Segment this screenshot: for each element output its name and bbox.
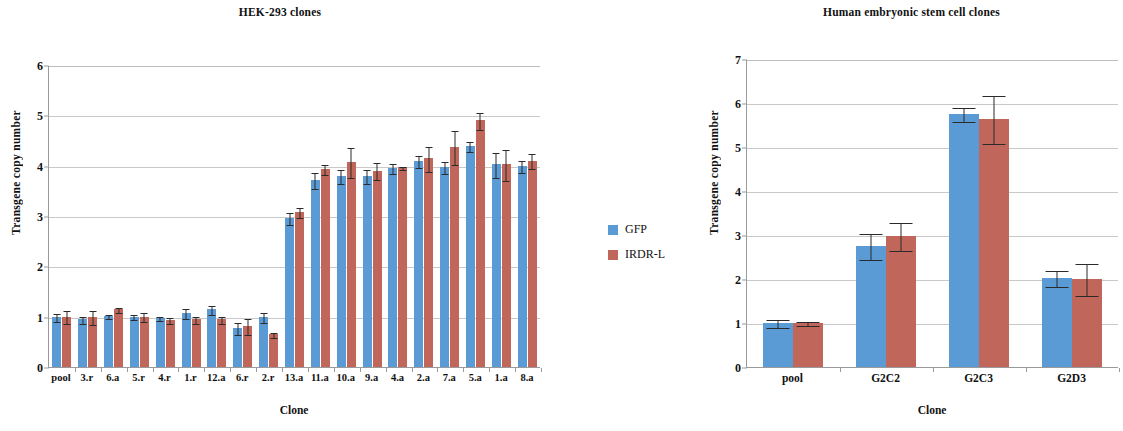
error-bar-cap bbox=[952, 108, 975, 109]
error-bar-cap bbox=[477, 130, 484, 131]
bar-irdr-l[interactable] bbox=[528, 66, 537, 367]
x-tick-label: 10.a bbox=[333, 372, 359, 383]
bar-irdr-l[interactable] bbox=[88, 66, 97, 367]
bar-irdr-l[interactable] bbox=[140, 66, 149, 367]
bar-group[interactable] bbox=[359, 66, 385, 367]
bar-irdr-l[interactable] bbox=[166, 66, 175, 367]
error-bar-cap bbox=[529, 169, 536, 170]
x-tick-label: 1.a bbox=[488, 372, 514, 383]
bar-rect bbox=[856, 246, 886, 367]
bar-irdr-l[interactable] bbox=[192, 66, 201, 367]
bar-group[interactable] bbox=[49, 66, 75, 367]
bar-irdr-l[interactable] bbox=[295, 66, 304, 367]
bar-irdr-l[interactable] bbox=[1072, 60, 1102, 367]
error-bar bbox=[993, 96, 994, 144]
legend-item[interactable]: GFP bbox=[608, 222, 665, 237]
error-bar-cap bbox=[374, 180, 381, 181]
bar-irdr-l[interactable] bbox=[321, 66, 330, 367]
bar-group[interactable] bbox=[411, 66, 437, 367]
bar-group[interactable] bbox=[204, 66, 230, 367]
error-bar-cap bbox=[131, 315, 138, 316]
bar-group[interactable] bbox=[463, 66, 489, 367]
bar-rect bbox=[311, 180, 320, 367]
bar-group[interactable] bbox=[75, 66, 101, 367]
bar-gfp[interactable] bbox=[518, 66, 527, 367]
bar-irdr-l[interactable] bbox=[217, 66, 226, 367]
error-bar-cap bbox=[890, 223, 913, 224]
bar-irdr-l[interactable] bbox=[450, 66, 459, 367]
bar-gfp[interactable] bbox=[949, 60, 979, 367]
bar-irdr-l[interactable] bbox=[886, 60, 916, 367]
bar-gfp[interactable] bbox=[414, 66, 423, 367]
bar-irdr-l[interactable] bbox=[502, 66, 511, 367]
bar-irdr-l[interactable] bbox=[243, 66, 252, 367]
bar-group[interactable] bbox=[178, 66, 204, 367]
bar-group[interactable] bbox=[488, 66, 514, 367]
bar-gfp[interactable] bbox=[259, 66, 268, 367]
error-bar-cap bbox=[503, 150, 510, 151]
bar-gfp[interactable] bbox=[388, 66, 397, 367]
bar-group[interactable] bbox=[230, 66, 256, 367]
bar-irdr-l[interactable] bbox=[476, 66, 485, 367]
bar-gfp[interactable] bbox=[337, 66, 346, 367]
bar-irdr-l[interactable] bbox=[373, 66, 382, 367]
bar-gfp[interactable] bbox=[1042, 60, 1072, 367]
bar-rect bbox=[78, 319, 87, 367]
bar-gfp[interactable] bbox=[492, 66, 501, 367]
error-bar bbox=[901, 223, 902, 251]
bar-gfp[interactable] bbox=[52, 66, 61, 367]
bar-gfp[interactable] bbox=[311, 66, 320, 367]
bar-group[interactable] bbox=[1025, 60, 1118, 367]
bar-gfp[interactable] bbox=[78, 66, 87, 367]
error-bar-cap bbox=[79, 317, 86, 318]
bar-group[interactable] bbox=[437, 66, 463, 367]
error-bar-cap bbox=[89, 311, 96, 312]
bar-gfp[interactable] bbox=[182, 66, 191, 367]
bar-gfp[interactable] bbox=[130, 66, 139, 367]
bar-gfp[interactable] bbox=[466, 66, 475, 367]
bar-group[interactable] bbox=[101, 66, 127, 367]
bar-gfp[interactable] bbox=[285, 66, 294, 367]
bar-group[interactable] bbox=[840, 60, 933, 367]
bar-rect bbox=[949, 114, 979, 367]
bar-gfp[interactable] bbox=[856, 60, 886, 367]
error-bar bbox=[196, 317, 197, 324]
bar-group[interactable] bbox=[747, 60, 840, 367]
bar-group[interactable] bbox=[514, 66, 540, 367]
bar-irdr-l[interactable] bbox=[979, 60, 1009, 367]
bar-gfp[interactable] bbox=[207, 66, 216, 367]
x-tick-label: pool bbox=[746, 372, 839, 384]
legend-item[interactable]: IRDR-L bbox=[608, 247, 665, 262]
bar-irdr-l[interactable] bbox=[793, 60, 823, 367]
bar-irdr-l[interactable] bbox=[424, 66, 433, 367]
bar-group[interactable] bbox=[127, 66, 153, 367]
bar-group[interactable] bbox=[152, 66, 178, 367]
bar-group[interactable] bbox=[282, 66, 308, 367]
bar-gfp[interactable] bbox=[363, 66, 372, 367]
bar-rect bbox=[414, 161, 423, 367]
error-bar-cap bbox=[296, 218, 303, 219]
bar-group[interactable] bbox=[307, 66, 333, 367]
bar-gfp[interactable] bbox=[440, 66, 449, 367]
bar-group[interactable] bbox=[385, 66, 411, 367]
bar-gfp[interactable] bbox=[104, 66, 113, 367]
bar-gfp[interactable] bbox=[156, 66, 165, 367]
bar-irdr-l[interactable] bbox=[398, 66, 407, 367]
bar-irdr-l[interactable] bbox=[62, 66, 71, 367]
bar-irdr-l[interactable] bbox=[114, 66, 123, 367]
bar-rect bbox=[363, 176, 372, 367]
bar-group[interactable] bbox=[256, 66, 282, 367]
bar-irdr-l[interactable] bbox=[269, 66, 278, 367]
bar-rect bbox=[156, 318, 165, 367]
bar-gfp[interactable] bbox=[233, 66, 242, 367]
error-bar-cap bbox=[167, 324, 174, 325]
error-bar-cap bbox=[270, 338, 277, 339]
bar-group[interactable] bbox=[933, 60, 1026, 367]
chart-panel-hesc: Human embryonic stem cell clones Transge… bbox=[700, 0, 1123, 431]
bar-group[interactable] bbox=[333, 66, 359, 367]
bar-gfp[interactable] bbox=[763, 60, 793, 367]
x-tick-label: 3.r bbox=[74, 372, 100, 383]
bar-rect bbox=[285, 218, 294, 367]
x-tick-label: G2C2 bbox=[839, 372, 932, 384]
bar-irdr-l[interactable] bbox=[347, 66, 356, 367]
